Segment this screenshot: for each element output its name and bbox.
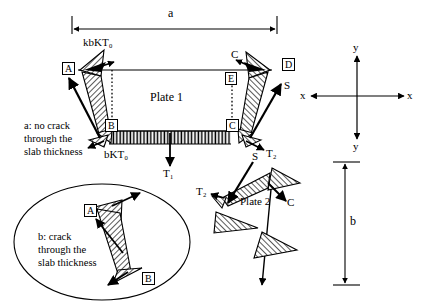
node-label-B: B [105, 119, 118, 132]
dimension-a-label: a [168, 7, 173, 20]
axis-label-y-bottom: y [353, 140, 359, 152]
node-label-A: A [62, 62, 75, 75]
node-label-D: D [282, 58, 295, 71]
caption-b-line1: b: crack [38, 231, 72, 243]
force-label-bKT0: bKT₀ [104, 148, 128, 160]
left-wedge-crack [69, 50, 114, 148]
inset-node-label-A: A [84, 204, 97, 217]
node-label-C: C [226, 119, 239, 132]
force-label-S-plate1: S [284, 79, 290, 91]
inset-node-label-B: B [142, 272, 155, 285]
caption-a-line3: slab thickness [24, 146, 83, 158]
axis-label-x-right: x [407, 89, 413, 101]
axis-label-x-left: x [300, 89, 306, 101]
caption-a-line1: a: no crack [24, 120, 70, 132]
plate1-label: Plate 1 [150, 91, 183, 104]
caption-b-line2: through the [38, 244, 86, 256]
axes-cross [311, 56, 404, 139]
force-label-C-plate2: C [287, 196, 294, 208]
force-label-T2-plate2: T₂ [196, 185, 207, 197]
dimension-b-label: b [350, 215, 356, 228]
caption-a-line2: through the [24, 133, 72, 145]
right-wedge-crack [236, 52, 281, 150]
caption-b-line3: slab thickness [38, 257, 97, 269]
force-label-C-plate1: C [231, 48, 238, 60]
plate2-group [211, 162, 300, 285]
axis-label-y-top: y [353, 41, 359, 53]
plate2-label: Plate 2 [240, 195, 270, 207]
node-label-E: E [225, 72, 237, 85]
force-label-T1: T₁ [163, 167, 174, 179]
dimension-a [72, 16, 277, 34]
force-label-kbKT0: kbKT₀ [83, 36, 113, 48]
force-label-S-plate2: S [252, 150, 258, 162]
force-label-T2-plate1: T₂ [266, 147, 277, 159]
